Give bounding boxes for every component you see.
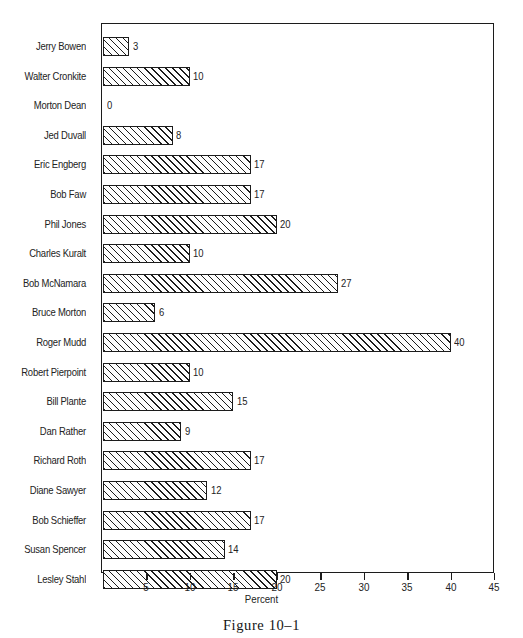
category-label: Bob Faw xyxy=(6,188,86,201)
bar-wrapper xyxy=(103,274,338,294)
x-axis-tick-label: 20 xyxy=(263,582,292,593)
bar-value-label: 6 xyxy=(159,306,164,319)
x-axis-tick xyxy=(277,573,278,580)
bar-row: Bruce Morton6 xyxy=(0,303,523,323)
bar-row: Eric Engberg17 xyxy=(0,155,523,175)
bar-value-label: 10 xyxy=(193,247,204,260)
x-axis-tick-label: 35 xyxy=(393,582,422,593)
bar-row: Robert Pierpoint10 xyxy=(0,363,523,383)
bar xyxy=(103,303,155,322)
bar-row: Charles Kuralt10 xyxy=(0,244,523,264)
bar xyxy=(103,155,251,174)
bar xyxy=(103,333,451,352)
category-label: Diane Sawyer xyxy=(6,484,86,497)
x-axis-tick-label: 5 xyxy=(132,582,161,593)
x-axis-tick xyxy=(451,573,452,580)
bar-row: Bill Plante15 xyxy=(0,392,523,412)
bar xyxy=(103,185,251,204)
bar-value-label: 17 xyxy=(254,158,265,171)
bar-value-label: 9 xyxy=(185,425,190,438)
x-axis-tick xyxy=(364,573,365,580)
bar-value-label: 20 xyxy=(280,218,291,231)
category-label: Robert Pierpoint xyxy=(6,366,86,379)
bar-row: Diane Sawyer12 xyxy=(0,481,523,501)
category-label: Jed Duvall xyxy=(6,129,86,142)
bar-row: Susan Spencer14 xyxy=(0,540,523,560)
x-axis-tick xyxy=(146,573,147,580)
bar-row: Bob McNamara27 xyxy=(0,274,523,294)
x-axis-tick xyxy=(233,573,234,580)
bar-row: Bob Faw17 xyxy=(0,185,523,205)
category-label: Bob McNamara xyxy=(6,277,86,290)
bar-wrapper xyxy=(103,67,190,87)
bar xyxy=(103,540,225,559)
bar-value-label: 17 xyxy=(254,454,265,467)
bar-value-label: 8 xyxy=(176,129,181,142)
bar-wrapper xyxy=(103,303,155,323)
bar xyxy=(103,511,251,530)
bar xyxy=(103,244,190,263)
category-label: Phil Jones xyxy=(6,218,86,231)
bar-wrapper xyxy=(103,451,251,471)
x-axis-tick xyxy=(320,573,321,580)
category-label: Eric Engberg xyxy=(6,158,86,171)
x-axis-title-label: Percent xyxy=(245,594,278,605)
x-axis-tick-label: 45 xyxy=(480,582,509,593)
bar-wrapper xyxy=(103,155,251,175)
bar-row: Jerry Bowen3 xyxy=(0,37,523,57)
bar-row: Jed Duvall8 xyxy=(0,126,523,146)
bar-wrapper xyxy=(103,37,129,57)
category-label: Charles Kuralt xyxy=(6,247,86,260)
bar xyxy=(103,126,173,145)
bar xyxy=(103,451,251,470)
bar-value-label: 10 xyxy=(193,70,204,83)
category-label: Susan Spencer xyxy=(6,543,86,556)
bar-value-label: 15 xyxy=(237,395,248,408)
x-axis-tick xyxy=(407,573,408,580)
x-axis-tick xyxy=(494,573,495,580)
category-label: Walter Cronkite xyxy=(6,70,86,83)
x-axis-tick-label: 25 xyxy=(306,582,335,593)
bar-wrapper xyxy=(103,244,190,264)
bar-value-label: 17 xyxy=(254,188,265,201)
x-axis-tick-label: 40 xyxy=(436,582,465,593)
category-label: Bill Plante xyxy=(6,395,86,408)
bar xyxy=(103,481,207,500)
bar-wrapper xyxy=(103,481,207,501)
bar-wrapper xyxy=(103,363,190,383)
figure-10-1: Jerry Bowen3Walter Cronkite10Morton Dean… xyxy=(0,0,523,638)
bar-value-label: 17 xyxy=(254,514,265,527)
category-label: Richard Roth xyxy=(6,454,86,467)
bar-wrapper xyxy=(103,126,173,146)
x-axis-tick-label: 10 xyxy=(176,582,205,593)
category-label: Bruce Morton xyxy=(6,306,86,319)
bar-row: Walter Cronkite10 xyxy=(0,67,523,87)
bar-row: Roger Mudd40 xyxy=(0,333,523,353)
bar-wrapper xyxy=(103,392,233,412)
bar-wrapper xyxy=(103,422,181,442)
x-axis-tick xyxy=(190,573,191,580)
category-label: Lesley Stahl xyxy=(6,573,86,586)
category-label: Jerry Bowen xyxy=(6,40,86,53)
bar-row: Dan Rather9 xyxy=(0,422,523,442)
bar xyxy=(103,215,277,234)
bar xyxy=(103,67,190,86)
bar-row: Phil Jones20 xyxy=(0,215,523,235)
figure-caption: Figure 10–1 xyxy=(0,617,523,634)
bar-wrapper xyxy=(103,185,251,205)
x-axis-tick-label: 15 xyxy=(219,582,248,593)
bar-value-label: 12 xyxy=(211,484,222,497)
bar-wrapper xyxy=(103,215,277,235)
bar xyxy=(103,392,233,411)
bar xyxy=(103,422,181,441)
bar-wrapper xyxy=(103,511,251,531)
x-axis-title: Percent xyxy=(13,594,510,605)
bar xyxy=(103,274,338,293)
bar-value-label: 0 xyxy=(107,99,112,112)
bar-wrapper xyxy=(103,540,225,560)
bar-value-label: 10 xyxy=(193,366,204,379)
bar-wrapper xyxy=(103,333,451,353)
category-label: Roger Mudd xyxy=(6,336,86,349)
bar-value-label: 14 xyxy=(228,543,239,556)
category-label: Bob Schieffer xyxy=(6,514,86,527)
